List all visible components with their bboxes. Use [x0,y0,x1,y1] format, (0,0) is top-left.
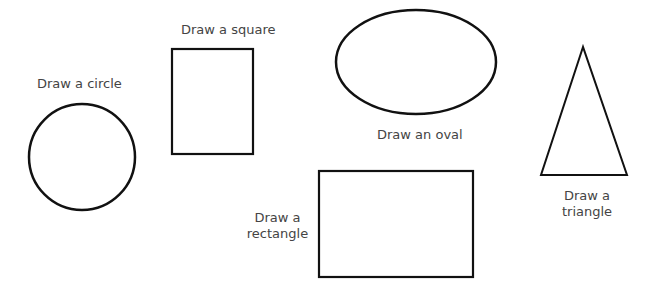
triangle-shape [541,47,627,175]
triangle-label: Draw a triangle [552,188,622,220]
square-label: Draw a square [181,22,275,38]
shapes-worksheet: Draw a circle Draw a square Draw an oval… [0,0,657,288]
triangle-label-line1: Draw a [552,188,622,204]
rectangle-shape [319,171,473,277]
square-shape [172,49,253,154]
rectangle-label: Draw a rectangle [240,210,315,242]
rectangle-label-line1: Draw a [240,210,315,226]
rectangle-label-line2: rectangle [240,226,315,242]
oval-label: Draw an oval [377,127,463,143]
triangle-label-line2: triangle [552,204,622,220]
shapes-drawing [0,0,657,288]
circle-shape [29,104,135,210]
oval-shape [336,10,496,114]
circle-label: Draw a circle [37,76,122,92]
